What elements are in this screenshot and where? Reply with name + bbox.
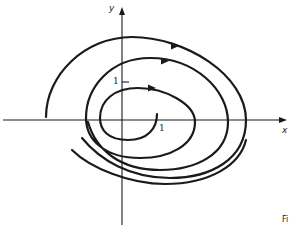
corner-text: Fi [282,216,288,224]
direction-arrows [148,43,179,92]
y-tick-label: 1 [113,77,119,86]
x-axis-label: x [282,126,287,135]
spiral-trajectory [46,37,246,184]
spiral-diagram [0,0,293,226]
y-axis [119,7,125,225]
x-tick-label: 1 [159,124,165,133]
x-axis-arrow-icon [279,117,287,123]
y-axis-arrow-icon [119,7,125,15]
y-axis-label: y [109,4,114,13]
